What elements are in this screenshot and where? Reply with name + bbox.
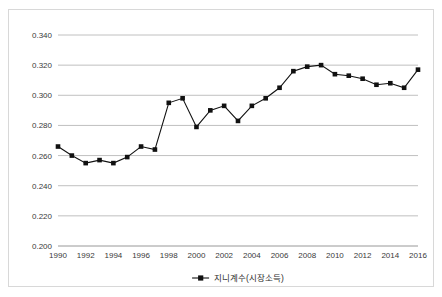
y-axis-tick-label: 0.300: [32, 91, 53, 100]
y-axis-tick-label: 0.220: [32, 212, 53, 221]
data-point-marker: 2002: 0.293: [222, 104, 227, 109]
data-point-marker: 2006: 0.305: [277, 85, 282, 90]
x-axis-tick-label: 2002: [215, 251, 233, 260]
data-point-marker: 1990: 0.266: [56, 144, 61, 149]
x-axis-tick-label: 1994: [104, 251, 122, 260]
data-point-marker: 2000: 0.279: [194, 125, 199, 130]
x-axis-tick-label: 2014: [381, 251, 399, 260]
data-point-marker: 2013: 0.307: [374, 82, 379, 87]
data-point-marker: 1992: 0.255: [83, 161, 88, 166]
line-chart-svg: 0.3400.3200.3000.2800.2600.2400.2200.200…: [0, 0, 442, 297]
data-point-marker: 2011: 0.313: [346, 73, 351, 78]
plot-area: 0.3400.3200.3000.2800.2600.2400.2200.200…: [0, 0, 442, 297]
data-point-marker: 2007: 0.316: [291, 69, 296, 74]
x-axis-tick-label: 1992: [77, 251, 95, 260]
data-point-marker: 1995: 0.259: [125, 155, 130, 160]
x-axis-tick-label: 2004: [243, 251, 261, 260]
data-point-marker: 2005: 0.298: [263, 96, 268, 101]
chart-screenshot: 0.3400.3200.3000.2800.2600.2400.2200.200…: [0, 0, 442, 297]
x-axis-tick-label: 2012: [354, 251, 372, 260]
x-axis-tick-label: 2008: [298, 251, 316, 260]
y-axis-tick-label: 0.260: [32, 152, 53, 161]
legend-swatch-marker: [198, 275, 203, 280]
data-point-marker: 2003: 0.283: [236, 119, 241, 124]
data-point-marker: 1998: 0.295: [166, 101, 171, 106]
y-axis-tick-label: 0.200: [32, 242, 53, 251]
x-axis-tick-label: 2016: [409, 251, 427, 260]
data-point-marker: 2009: 0.320: [319, 63, 324, 68]
y-axis-tick-label: 0.340: [32, 31, 53, 40]
data-point-marker: 2012: 0.311: [360, 76, 365, 81]
x-axis-tick-label: 1990: [49, 251, 67, 260]
data-point-marker: 1999: 0.298: [180, 96, 185, 101]
data-point-marker: 1993: 0.257: [97, 158, 102, 163]
data-point-marker: 2010: 0.314: [333, 72, 338, 77]
data-point-marker: 1991: 0.260: [70, 153, 75, 158]
data-point-marker: 1996: 0.266: [139, 144, 144, 149]
x-axis-tick-label: 2000: [188, 251, 206, 260]
x-axis-tick-label: 1998: [160, 251, 178, 260]
data-point-marker: 2008: 0.319: [305, 64, 310, 69]
data-point-marker: 2001: 0.290: [208, 108, 213, 113]
data-point-marker: 2014: 0.308: [388, 81, 393, 86]
y-axis-tick-label: 0.240: [32, 182, 53, 191]
data-point-marker: 2016: 0.317: [416, 67, 421, 72]
data-point-marker: 2015: 0.305: [402, 85, 407, 90]
data-point-marker: 2004: 0.293: [250, 104, 255, 109]
y-axis-tick-label: 0.280: [32, 121, 53, 130]
x-axis-tick-label: 1996: [132, 251, 150, 260]
x-axis-tick-label: 2010: [326, 251, 344, 260]
y-axis-tick-label: 0.320: [32, 61, 53, 70]
x-axis-tick-label: 2006: [271, 251, 289, 260]
legend-label: 지니계수(시장소득): [214, 273, 284, 283]
data-point-marker: 1994: 0.255: [111, 161, 116, 166]
data-point-marker: 1997: 0.264: [153, 147, 158, 152]
